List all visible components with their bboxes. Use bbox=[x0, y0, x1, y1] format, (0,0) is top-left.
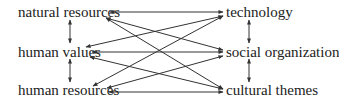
edge-natural-resources-social-organization bbox=[106, 18, 223, 50]
connection-arrows bbox=[0, 0, 339, 101]
edge-human-values-technology bbox=[86, 16, 223, 47]
edge-human-resources-technology bbox=[93, 16, 223, 86]
edge-natural-resources-cultural-themes bbox=[106, 18, 223, 89]
edge-human-resources-social-organization bbox=[107, 56, 223, 88]
